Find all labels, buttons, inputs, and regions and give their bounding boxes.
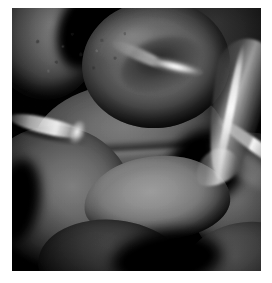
electron-micrograph-image <box>12 8 261 271</box>
figure-root <box>0 0 272 283</box>
